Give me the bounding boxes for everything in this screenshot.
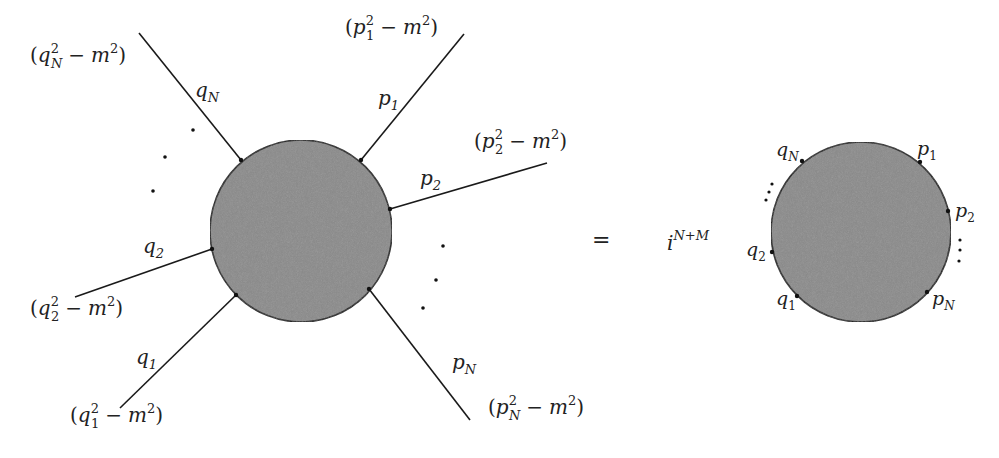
- leg-p2: [390, 163, 547, 209]
- rb-vertex-p2: [946, 209, 950, 213]
- rb-vertex-q1: [795, 294, 799, 298]
- equals-sign: =: [592, 227, 610, 252]
- propagator-pN: (p2N−m2): [488, 393, 584, 423]
- rb-label-p1: p1: [917, 137, 937, 163]
- rb-vdots-left: [764, 182, 773, 201]
- vertex-dot-q1: [234, 293, 238, 297]
- rb-label-pN: pN: [932, 287, 955, 313]
- vertex-dot-q2: [210, 247, 214, 251]
- vertex-dot-qN: [239, 158, 243, 162]
- propagator-p1: (p21−m2): [345, 13, 438, 43]
- propagator-q1: (q21−m2): [70, 401, 163, 431]
- label-p2: p2: [420, 166, 441, 193]
- propagator-q2: (q22−m2): [30, 294, 123, 324]
- left-blob-group: qN p1 p2 q2 q1 pN (q2N−m2) (p21−m2) (p22…: [30, 13, 584, 431]
- rb-label-qN: qN: [776, 138, 799, 164]
- rb-vertex-p1: [918, 160, 922, 164]
- vertex-dot-pN: [367, 287, 371, 291]
- ellipsis-left: [151, 128, 195, 193]
- label-q2: q2: [143, 234, 164, 261]
- label-q1: q1: [136, 345, 157, 372]
- label-p1: p1: [378, 86, 399, 113]
- rb-vertex-pN: [925, 290, 929, 294]
- prefactor: iN+M: [667, 228, 710, 255]
- right-blob-group: qN p1 p2 q2 q1 pN: [746, 137, 975, 322]
- rb-label-p2: p2: [955, 199, 975, 225]
- ellipsis-right: [421, 244, 445, 310]
- leg-qN: [139, 33, 241, 160]
- vertex-dot-p2: [388, 207, 392, 211]
- rb-label-q2: q2: [746, 238, 766, 264]
- propagator-p2: (p22−m2): [474, 127, 567, 157]
- rb-vertex-q2: [770, 250, 774, 254]
- label-pN: pN: [452, 350, 477, 377]
- propagator-qN: (q2N−m2): [30, 41, 126, 71]
- amputation-diagram: qN p1 p2 q2 q1 pN (q2N−m2) (p21−m2) (p22…: [0, 0, 999, 458]
- label-qN: qN: [195, 78, 220, 105]
- leg-p1: [361, 34, 464, 160]
- vertex-dot-p1: [359, 158, 363, 162]
- rb-vertex-qN: [800, 159, 804, 163]
- rb-vdots-right: [957, 238, 961, 262]
